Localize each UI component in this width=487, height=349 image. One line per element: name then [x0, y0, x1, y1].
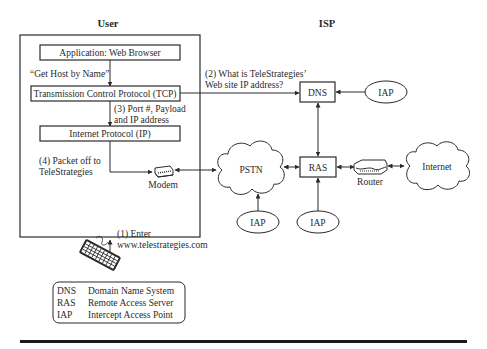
- bottom-rule: [20, 340, 467, 343]
- ip-to-modem-arrow: [110, 141, 152, 172]
- legend-row: DNS Domain Name System: [57, 286, 175, 296]
- iap-dns-label: IAP: [378, 88, 393, 98]
- step1-label-line2: www.telestrategies.com: [117, 240, 208, 250]
- application-layer-label: Application: Web Browser: [59, 48, 161, 58]
- pstn-label: PSTN: [239, 165, 262, 175]
- legend-abbr: RAS: [57, 298, 75, 308]
- modem-icon: [155, 166, 173, 177]
- step4-label-line2: TeleStrategies: [39, 167, 93, 177]
- router-label: Router: [357, 177, 384, 187]
- diagram-canvas: User ISP Application: Web Browser “Get H…: [0, 0, 487, 349]
- iap-pstn-label: IAP: [250, 218, 265, 228]
- keyboard-cable-icon: [96, 236, 108, 245]
- modem-label: Modem: [148, 180, 178, 190]
- step4-label-line1: (4) Packet off to: [39, 156, 101, 167]
- step3-label-line1: (3) Port #, Payload: [114, 104, 186, 115]
- step3-label-line2: and IP address: [114, 115, 169, 125]
- user-header: User: [98, 18, 119, 29]
- legend-meaning: Domain Name System: [88, 286, 175, 296]
- step1-label-line1: (1) Enter: [117, 229, 152, 240]
- keyboard-icon: [79, 239, 122, 272]
- step2-label-line1: (2) What is TeleStrategies’: [205, 69, 307, 80]
- iap-ras-label: IAP: [310, 218, 325, 228]
- legend-meaning: Intercept Access Point: [88, 310, 173, 320]
- step2-label-line2: Web site IP address?: [205, 80, 283, 90]
- legend-meaning: Remote Access Server: [88, 298, 174, 308]
- legend-row: RAS Remote Access Server: [57, 298, 174, 308]
- ip-layer-label: Internet Protocol (IP): [69, 129, 150, 140]
- ras-label: RAS: [309, 163, 327, 173]
- dns-label: DNS: [308, 88, 327, 98]
- router-icon: [354, 160, 387, 174]
- isp-header: ISP: [319, 18, 336, 29]
- internet-label: Internet: [422, 162, 452, 172]
- legend-abbr: IAP: [57, 310, 72, 320]
- legend-abbr: DNS: [57, 286, 76, 296]
- get-host-label: “Get Host by Name”: [30, 69, 109, 79]
- tcp-layer-label: Transmission Control Protocol (TCP): [34, 89, 177, 100]
